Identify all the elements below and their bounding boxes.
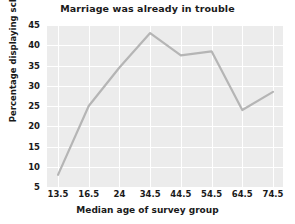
y-axis-tick-label: 40 (28, 40, 40, 50)
chart-figure: Marriage was already in trouble Percenta… (0, 0, 295, 224)
y-axis-tick-label: 5 (34, 182, 40, 192)
x-axis-tick-label: 54.5 (201, 189, 222, 199)
chart-title: Marriage was already in trouble (0, 3, 295, 14)
y-axis-tick-label: 10 (28, 162, 40, 172)
y-axis-tick-label: 35 (28, 61, 40, 71)
x-axis-tick-label: 24 (114, 189, 126, 199)
y-axis-tick-labels: 51015202530354045 (0, 25, 43, 187)
y-axis-tick-label: 30 (28, 81, 40, 91)
x-axis-tick-label: 16.5 (78, 189, 99, 199)
y-axis-tick-label: 15 (28, 142, 40, 152)
x-axis-tick-labels: 13.516.52434.544.554.564.574.5 (47, 189, 283, 203)
x-axis-title: Median age of survey group (0, 205, 295, 215)
x-axis-tick-label: 13.5 (48, 189, 69, 199)
plot-area (47, 25, 283, 187)
x-axis-tick-label: 34.5 (140, 189, 161, 199)
y-axis-tick-label: 45 (28, 20, 40, 30)
y-axis-tick-label: 25 (28, 101, 40, 111)
x-axis-tick-label: 44.5 (170, 189, 191, 199)
data-series-line (47, 25, 283, 187)
x-axis-tick-label: 64.5 (232, 189, 253, 199)
y-axis-tick-label: 20 (28, 121, 40, 131)
x-axis-tick-label: 74.5 (263, 189, 284, 199)
